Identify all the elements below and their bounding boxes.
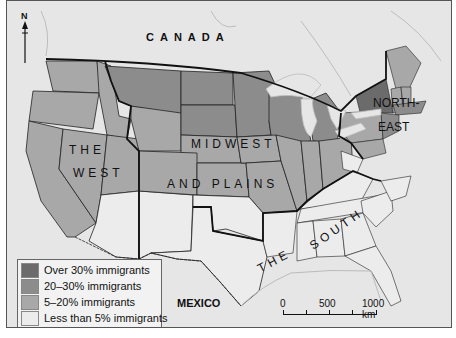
label-northeast-line1: NORTH- xyxy=(373,96,419,110)
legend-label: Over 30% immigrants xyxy=(44,264,150,276)
arrow-up-icon xyxy=(19,21,31,73)
label-midwest-line1: MIDWEST xyxy=(191,137,276,151)
scale-tick-mark xyxy=(329,310,330,315)
scale-tick-1000: 1000 km xyxy=(362,298,389,320)
legend-swatch xyxy=(21,311,39,326)
scale-tick-mark xyxy=(376,310,377,315)
label-northeast-line2: EAST xyxy=(378,120,409,134)
north-arrow: N xyxy=(19,11,31,63)
legend-item-5-20: 5–20% immigrants xyxy=(21,294,158,310)
legend-label: 20–30% immigrants xyxy=(44,280,141,292)
scale-tick-mark xyxy=(306,310,307,315)
legend-swatch xyxy=(21,295,39,310)
label-midwest-line2: AND PLAINS xyxy=(167,177,278,191)
scale-tick-mark xyxy=(352,310,353,315)
north-label: N xyxy=(21,11,28,21)
legend-swatch xyxy=(21,279,39,294)
scale-tick-500: 500 xyxy=(319,298,336,309)
legend-item-over-30: Over 30% immigrants xyxy=(21,262,158,278)
label-mexico: MEXICO xyxy=(177,297,220,309)
scale-tick-0: 0 xyxy=(280,298,286,309)
label-canada: CANADA xyxy=(146,31,230,43)
region-southwest xyxy=(89,191,193,259)
legend-swatch xyxy=(21,263,39,278)
scale-tick-mark xyxy=(283,310,284,315)
scale-bar: 0 500 1000 km xyxy=(279,298,389,322)
legend-label: Less than 5% immigrants xyxy=(44,312,168,324)
legend: Over 30% immigrants 20–30% immigrants 5–… xyxy=(17,259,162,328)
legend-label: 5–20% immigrants xyxy=(44,296,135,308)
legend-item-20-30: 20–30% immigrants xyxy=(21,278,158,294)
label-west-line1: THE xyxy=(69,143,105,157)
map-frame: N CANADA MEXICO THE WEST MIDWEST AND PLA… xyxy=(6,0,452,328)
legend-item-under-5: Less than 5% immigrants xyxy=(21,310,158,326)
label-west-line2: WEST xyxy=(73,166,124,180)
